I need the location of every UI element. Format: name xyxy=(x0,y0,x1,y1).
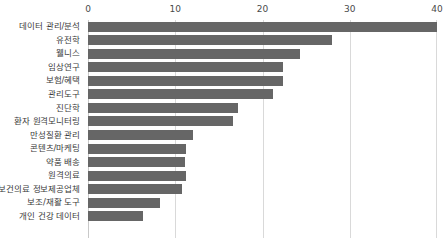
bar-row xyxy=(88,88,437,102)
category-label-row: 웰니스 xyxy=(0,47,84,61)
x-tick-label: 0 xyxy=(85,4,91,14)
bar-row xyxy=(88,169,437,183)
bar-row xyxy=(88,142,437,156)
category-label-row: 보험/혜택 xyxy=(0,74,84,88)
category-label: 웰니스 xyxy=(56,49,80,58)
bar[interactable] xyxy=(88,157,185,167)
category-label-row: 진단학 xyxy=(0,101,84,115)
bar[interactable] xyxy=(88,171,186,181)
bar-row xyxy=(88,74,437,88)
category-label: 약품 배송 xyxy=(46,158,80,167)
category-label: 보험/혜택 xyxy=(46,76,80,85)
bar[interactable] xyxy=(88,35,332,45)
bar-row xyxy=(88,196,437,210)
bar[interactable] xyxy=(88,76,283,86)
category-label-row: 원격의료 xyxy=(0,169,84,183)
bar-row xyxy=(88,61,437,75)
category-label-row: 유전학 xyxy=(0,34,84,48)
bar-row xyxy=(88,47,437,61)
category-label-row: 콘텐츠/마케팅 xyxy=(0,142,84,156)
bar[interactable] xyxy=(88,89,273,99)
bar-row xyxy=(88,155,437,169)
bar-row xyxy=(88,101,437,115)
bar[interactable] xyxy=(88,116,233,126)
category-label: 원격의료 xyxy=(48,171,80,180)
bar[interactable] xyxy=(88,144,186,154)
bar[interactable] xyxy=(88,103,238,113)
category-label: 만성질환 관리 xyxy=(30,131,80,140)
bar[interactable] xyxy=(88,184,182,194)
category-label-row: 만성질환 관리 xyxy=(0,128,84,142)
bar[interactable] xyxy=(88,130,193,140)
bar-row xyxy=(88,128,437,142)
horizontal-bar-chart: 010203040 데이터 관리/분석유전학웰니스임상연구보험/혜택관리도구진단… xyxy=(0,0,444,240)
category-label-row: 개인 건강 데이터 xyxy=(0,210,84,224)
category-label: 데이터 관리/분석 xyxy=(19,22,80,31)
category-label-row: 데이터 관리/분석 xyxy=(0,20,84,34)
category-label-row: 관리도구 xyxy=(0,88,84,102)
category-label-row: 보조/재활 도구 xyxy=(0,196,84,210)
category-label-row: 약품 배송 xyxy=(0,155,84,169)
category-label-row: 보건의료 정보제공업체 xyxy=(0,183,84,197)
bar-row xyxy=(88,183,437,197)
category-label-row: 환자 원격모니터링 xyxy=(0,115,84,129)
category-label: 진단학 xyxy=(56,104,80,113)
x-tick-label: 20 xyxy=(257,4,268,14)
plot-area xyxy=(88,20,437,238)
category-axis-labels: 데이터 관리/분석유전학웰니스임상연구보험/혜택관리도구진단학환자 원격모니터링… xyxy=(0,20,84,238)
category-label: 임상연구 xyxy=(48,63,80,72)
x-tick-label: 40 xyxy=(431,4,442,14)
bar[interactable] xyxy=(88,49,300,59)
category-label: 개인 건강 데이터 xyxy=(19,212,80,221)
bar[interactable] xyxy=(88,198,160,208)
category-label: 보건의료 정보제공업체 xyxy=(0,185,80,194)
x-axis-top: 010203040 xyxy=(88,0,437,20)
category-label-row: 임상연구 xyxy=(0,61,84,75)
bar-row xyxy=(88,210,437,224)
x-tick-label: 10 xyxy=(170,4,181,14)
category-label: 환자 원격모니터링 xyxy=(14,117,80,126)
bar-row xyxy=(88,20,437,34)
bar-row xyxy=(88,34,437,48)
bar-rows xyxy=(88,20,437,238)
category-label: 유전학 xyxy=(56,36,80,45)
bar[interactable] xyxy=(88,211,143,221)
category-label: 보조/재활 도구 xyxy=(27,198,80,207)
x-tick-label: 30 xyxy=(344,4,355,14)
bar-row xyxy=(88,115,437,129)
category-label: 관리도구 xyxy=(48,90,80,99)
bar[interactable] xyxy=(88,22,437,32)
bar[interactable] xyxy=(88,62,283,72)
category-label: 콘텐츠/마케팅 xyxy=(30,144,80,153)
